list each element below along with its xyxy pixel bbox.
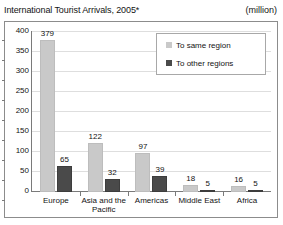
y-tick-mark (2, 100, 5, 101)
bar[interactable]: 5 (200, 190, 215, 192)
y-tick-mark (2, 160, 5, 161)
x-axis-categories: EuropeAsia and the PacificAmericasMiddle… (32, 196, 271, 214)
y-axis-labels: 400350300250200150100500 (5, 31, 29, 192)
bar[interactable]: 32 (105, 179, 120, 192)
bar-value-label: 39 (156, 166, 165, 174)
y-tick-mark (2, 80, 5, 81)
y-tick-mark (2, 180, 5, 181)
legend-item[interactable]: To other regions (166, 59, 265, 68)
chart-page: International Tourist Arrivals, 2005* (m… (0, 0, 283, 225)
unit-label: (million) (246, 5, 280, 16)
bar[interactable]: 39 (152, 176, 167, 192)
y-tick-mark (2, 40, 5, 41)
chart-legend: To same regionTo other regions (156, 33, 266, 75)
bar[interactable]: 18 (183, 185, 198, 192)
bar[interactable]: 5 (248, 190, 263, 192)
bar-value-label: 5 (206, 180, 210, 188)
bar[interactable]: 122 (88, 143, 103, 192)
chart-frame: 400350300250200150100500 379651223297391… (4, 21, 278, 218)
bar-value-label: 379 (41, 30, 54, 38)
bar-value-label: 97 (139, 143, 148, 151)
bar-value-label: 65 (60, 156, 69, 164)
bar-group: 12232 (80, 31, 128, 192)
y-tick-mark (2, 60, 5, 61)
bar-group: 37965 (32, 31, 80, 192)
y-tick-label: 350 (7, 47, 29, 55)
x-tick-label: Asia and the Pacific (80, 196, 128, 214)
bar[interactable]: 16 (231, 186, 246, 192)
bar[interactable]: 65 (57, 166, 72, 192)
y-tick-mark (2, 200, 5, 201)
page-title: International Tourist Arrivals, 2005* (4, 5, 139, 16)
x-tick-label: Africa (223, 196, 271, 214)
x-tick-label: Americas (128, 196, 176, 214)
legend-swatch-icon (166, 60, 172, 66)
y-tick-mark (2, 140, 5, 141)
bar[interactable]: 379 (40, 40, 55, 192)
y-tick-label: 200 (7, 107, 29, 115)
bar-value-label: 122 (89, 133, 102, 141)
y-tick-label: 400 (7, 27, 29, 35)
y-tick-mark (2, 120, 5, 121)
y-tick-label: 0 (7, 187, 29, 195)
y-tick-label: 250 (7, 87, 29, 95)
bar-value-label: 16 (234, 176, 243, 184)
legend-swatch-icon (166, 42, 172, 48)
bar-value-label: 32 (108, 169, 117, 177)
x-tick-label: Europe (32, 196, 80, 214)
legend-label: To same region (176, 41, 231, 50)
y-tick-label: 150 (7, 127, 29, 135)
y-tick-label: 300 (7, 67, 29, 75)
bar-value-label: 5 (253, 180, 257, 188)
chart-header: International Tourist Arrivals, 2005* (m… (4, 2, 279, 18)
legend-label: To other regions (176, 59, 233, 68)
y-tick-label: 50 (7, 167, 29, 175)
legend-item[interactable]: To same region (166, 41, 265, 50)
x-tick-label: Middle East (175, 196, 223, 214)
y-tick-label: 100 (7, 147, 29, 155)
bar-value-label: 18 (186, 175, 195, 183)
bar[interactable]: 97 (135, 153, 150, 192)
